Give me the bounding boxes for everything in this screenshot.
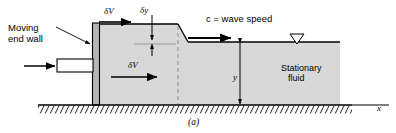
ground-bed: [38, 105, 352, 114]
piston-rod: [57, 59, 93, 72]
wave-speed-label: c = wave speed: [206, 13, 272, 24]
moving-end-wall: [93, 23, 100, 105]
moving-wall-leader-line: [56, 27, 90, 44]
delta-v-top-label: δV: [104, 6, 114, 16]
delta-v-mid-label: δV: [128, 60, 138, 70]
moving-wall-label-line2: end wall: [8, 33, 43, 44]
depth-y-label: y: [233, 72, 237, 82]
figure-container: Moving end wall δV δy c = wave speed δV …: [0, 0, 396, 133]
moving-wall-label-line1: Moving: [8, 22, 39, 33]
x-axis-label: x: [377, 103, 381, 113]
stationary-fluid-label-line2: fluid: [288, 73, 305, 83]
delta-y-label: δy: [140, 5, 148, 15]
figure-caption: (a): [188, 117, 199, 127]
stationary-fluid-label-line1: Stationary: [281, 63, 322, 73]
schematic-drawing: [0, 0, 396, 133]
